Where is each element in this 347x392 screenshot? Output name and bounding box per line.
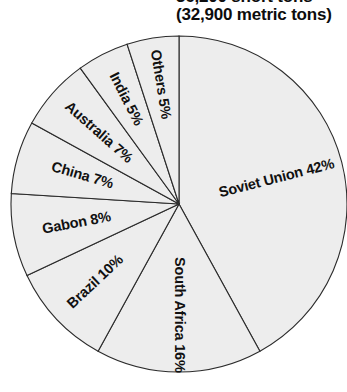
pie-chart: Soviet Union 42%South Africa 16%Brazil 1… [0,0,347,392]
pie-chart-svg: Soviet Union 42%South Africa 16%Brazil 1… [0,0,347,392]
pie-label-south-africa: South Africa 16% [172,257,188,373]
